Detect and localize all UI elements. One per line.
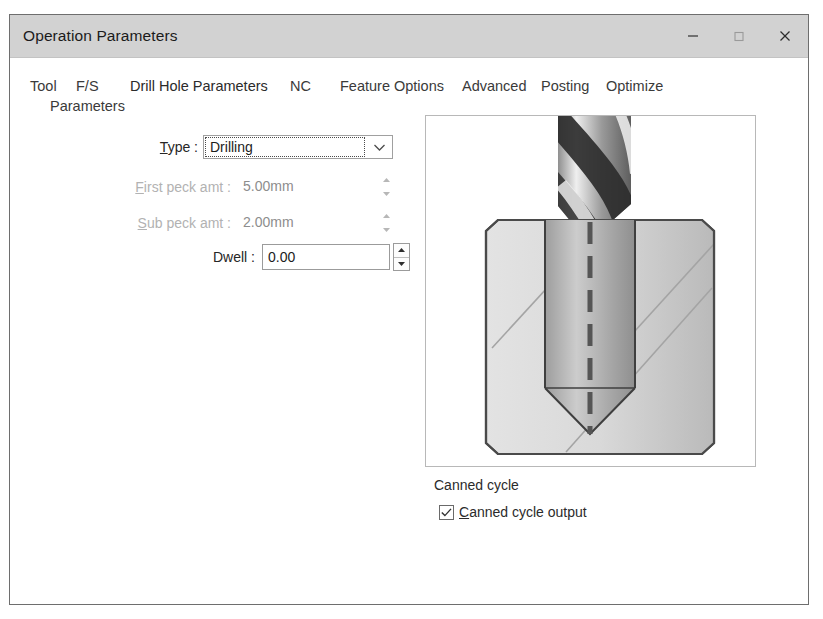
operation-parameters-dialog: Operation Parameters — [9, 14, 809, 605]
stepper-down-icon[interactable] — [394, 258, 409, 271]
stepper-down-icon — [378, 223, 395, 237]
minimize-button[interactable] — [670, 15, 716, 57]
first-peck-amt-label: First peck amt : — [103, 179, 231, 195]
window-controls — [670, 15, 808, 57]
canned-cycle-group-label: Canned cycle — [434, 477, 519, 493]
sub-peck-amt-value: 2.00mm — [238, 214, 294, 230]
canned-cycle-output-checkbox[interactable] — [439, 505, 454, 520]
canned-cycle-output-checkbox-row[interactable]: Canned cycle output — [439, 504, 587, 520]
first-peck-amt-stepper — [378, 173, 395, 201]
stepper-up-icon — [378, 173, 395, 187]
stepper-down-icon — [378, 187, 395, 201]
first-peck-amt-input: 5.00mm — [238, 175, 376, 197]
drill-preview-panel — [425, 115, 756, 467]
close-icon — [777, 28, 793, 44]
type-combobox[interactable]: Drilling — [203, 135, 393, 159]
tab-optimize[interactable]: Optimize — [606, 79, 663, 94]
dwell-input[interactable]: 0.00 — [262, 244, 390, 270]
sub-peck-amt-input: 2.00mm — [238, 211, 376, 233]
sub-peck-amt-label: Sub peck amt : — [103, 215, 231, 231]
dwell-value: 0.00 — [263, 249, 295, 265]
canned-cycle-output-label: Canned cycle output — [459, 504, 587, 520]
stepper-up-icon — [378, 209, 395, 223]
check-icon — [441, 508, 452, 517]
stepper-up-icon[interactable] — [394, 244, 409, 258]
drill-illustration — [426, 116, 755, 466]
dwell-label: Dwell : — [160, 249, 255, 265]
chevron-down-icon[interactable] — [366, 136, 392, 158]
type-label: Type : — [103, 139, 198, 155]
maximize-icon — [732, 29, 746, 43]
tab-posting[interactable]: Posting — [541, 79, 589, 94]
type-value: Drilling — [206, 139, 253, 155]
type-combobox-value-box[interactable]: Drilling — [205, 137, 365, 157]
dwell-stepper[interactable] — [393, 243, 410, 271]
tab-advanced[interactable]: Advanced — [462, 79, 527, 94]
maximize-button[interactable] — [716, 15, 762, 57]
minimize-icon — [686, 29, 700, 43]
sub-peck-amt-stepper — [378, 209, 395, 237]
close-button[interactable] — [762, 15, 808, 57]
first-peck-amt-value: 5.00mm — [238, 178, 294, 194]
screen: Operation Parameters — [0, 0, 823, 619]
drill-parameters-form: Type : Drilling First peck amt : 5.00mm — [10, 15, 420, 604]
